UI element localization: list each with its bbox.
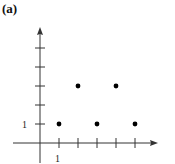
x-axis-arrow-icon (150, 140, 158, 146)
y-tick-label: 1 (22, 119, 27, 130)
data-point (76, 84, 81, 89)
data-point (95, 122, 100, 127)
axes (13, 27, 158, 163)
y-axis-arrow-icon (37, 27, 43, 35)
scatter-plot: 1 1 (0, 0, 175, 164)
data-point (133, 122, 138, 127)
data-points (57, 84, 138, 127)
data-point (114, 84, 119, 89)
data-point (57, 122, 62, 127)
x-tick-label: 1 (55, 153, 60, 164)
